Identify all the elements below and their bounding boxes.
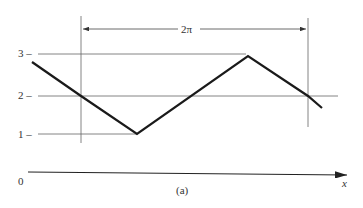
origin-label: 0 [18, 175, 24, 187]
x-axis-label: x [341, 177, 347, 189]
y-label-2: 2 – [18, 89, 32, 101]
triangle-wave-diagram: 3 – 2 – 1 – 2π 0 x (a) [0, 0, 363, 208]
y-label-1: 1 – [18, 128, 32, 140]
x-axis [28, 172, 347, 175]
diagram-svg: 3 – 2 – 1 – 2π 0 x (a) [0, 0, 363, 208]
y-label-3: 3 – [18, 47, 32, 59]
period-label: 2π [181, 23, 193, 35]
triangle-wave-curve [32, 56, 322, 134]
caption: (a) [176, 184, 189, 197]
